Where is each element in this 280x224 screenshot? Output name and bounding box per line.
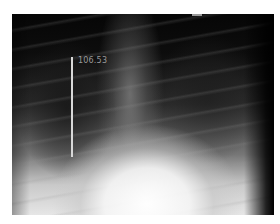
right-edge-shadow (12, 14, 274, 215)
measurement-label: 106.53 (78, 56, 107, 65)
image-canvas: 106.53 (0, 0, 280, 224)
chest-xray-image: 106.53 (12, 14, 274, 215)
measurement-line[interactable] (71, 57, 73, 157)
top-marker (192, 14, 202, 16)
